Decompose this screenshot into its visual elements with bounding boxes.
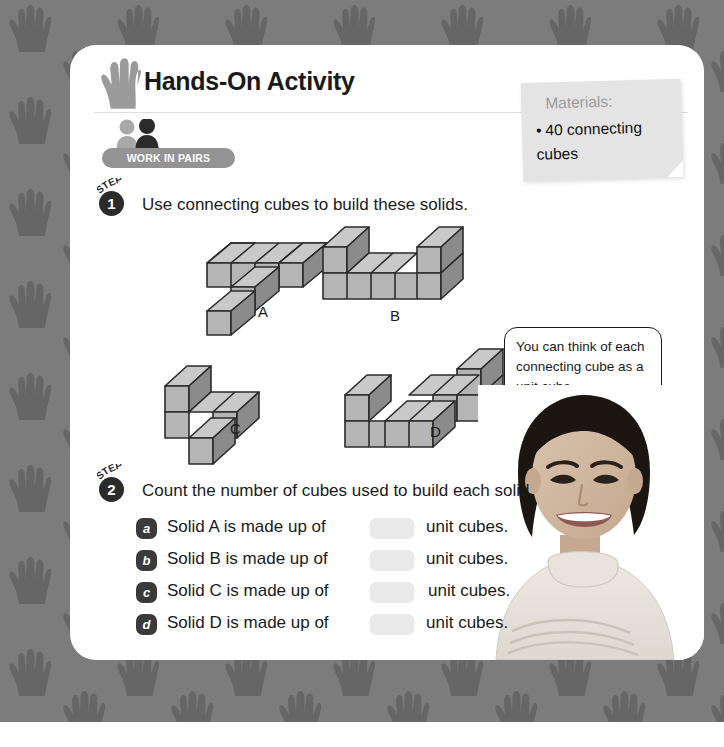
answer-b-input[interactable] — [370, 550, 414, 571]
answer-c-prefix: Solid C is made up of — [167, 581, 329, 601]
solid-d-label: D — [430, 423, 441, 440]
answer-c-suffix: unit cubes. — [428, 581, 510, 601]
step-1-number: 1 — [99, 191, 124, 216]
step-2-number: 2 — [99, 477, 124, 502]
activity-card: Hands-On Activity WORK IN PAIRS Material… — [70, 45, 704, 660]
solid-c-figure — [155, 360, 330, 480]
item-marker-d: d — [136, 614, 157, 635]
bullet-glyph: • — [536, 122, 542, 139]
answer-d-prefix: Solid D is made up of — [167, 613, 329, 633]
materials-heading: Materials: — [545, 93, 613, 113]
two-people-icon — [114, 119, 166, 149]
answer-c-input[interactable] — [370, 582, 414, 603]
answer-a-prefix: Solid A is made up of — [167, 517, 326, 537]
work-in-pairs-badge: WORK IN PAIRS — [102, 148, 235, 168]
materials-note: Materials: •40 connecting cubes — [521, 79, 684, 181]
answer-b-suffix: unit cubes. — [426, 549, 508, 569]
student-photo — [478, 385, 704, 660]
answer-b-prefix: Solid B is made up of — [167, 549, 328, 569]
page-title: Hands-On Activity — [144, 67, 355, 96]
answer-d-suffix: unit cubes. — [426, 613, 508, 633]
answer-d-input[interactable] — [370, 614, 414, 635]
answer-a-input[interactable] — [370, 518, 414, 539]
solid-b-figure — [315, 217, 490, 337]
item-marker-c: c — [136, 582, 157, 603]
step-1-text: Use connecting cubes to build these soli… — [142, 195, 468, 215]
solid-b-label: B — [390, 307, 400, 324]
bottom-white-strip — [0, 722, 724, 747]
answer-a-suffix: unit cubes. — [426, 517, 508, 537]
solid-c-label: C — [230, 420, 241, 437]
materials-item-text: 40 connecting cubes — [536, 119, 642, 163]
solid-a-label: A — [258, 303, 268, 320]
item-marker-b: b — [136, 550, 157, 571]
step-2-text: Count the number of cubes used to build … — [142, 481, 534, 501]
hand-icon — [96, 58, 142, 110]
materials-item: •40 connecting cubes — [536, 115, 677, 167]
item-marker-a: a — [136, 518, 157, 539]
